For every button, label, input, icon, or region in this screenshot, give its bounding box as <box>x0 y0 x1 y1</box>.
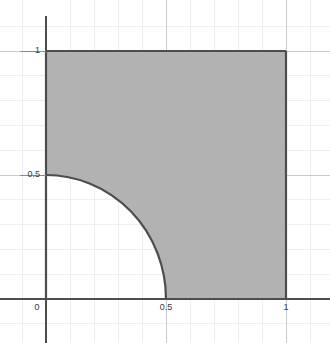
plot-figure: 1 0.5 0 0.5 1 <box>0 0 330 343</box>
coordinate-plot-canvas <box>0 0 330 343</box>
x-tick-label-1: 1 <box>279 303 293 312</box>
x-tick-label-0: 0 <box>30 303 44 312</box>
unit-square-shaded-fill <box>46 51 286 299</box>
tick-marks <box>20 51 46 175</box>
shaded-region <box>46 51 286 299</box>
x-tick-label-0.5: 0.5 <box>155 303 177 312</box>
y-tick-label-0.5: 0.5 <box>14 170 40 179</box>
y-tick-label-1: 1 <box>18 46 40 55</box>
